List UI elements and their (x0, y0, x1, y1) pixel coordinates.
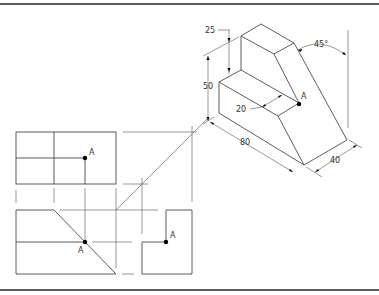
orthographic-views: A A (16, 118, 208, 274)
top-view: A (16, 132, 116, 184)
top-label-a: A (89, 148, 95, 157)
side-label-a: A (170, 231, 176, 240)
side-view: A (142, 210, 192, 274)
dim-25: 25 (205, 26, 215, 35)
front-label-a: A (78, 246, 84, 255)
technical-drawing: A 25 50 20 80 40 (0, 0, 379, 295)
isometric-view: A 25 50 20 80 40 (203, 24, 362, 177)
dim-80: 80 (240, 138, 250, 147)
iso-point-a (297, 102, 301, 106)
side-point-a (164, 240, 168, 244)
front-point-a (83, 240, 87, 244)
top-point-a (83, 156, 87, 160)
iso-label-a: A (301, 92, 307, 101)
dim-20: 20 (236, 105, 246, 114)
dim-45-degrees: 45° (314, 40, 328, 49)
dim-50: 50 (203, 82, 213, 91)
dim-40: 40 (330, 156, 340, 165)
